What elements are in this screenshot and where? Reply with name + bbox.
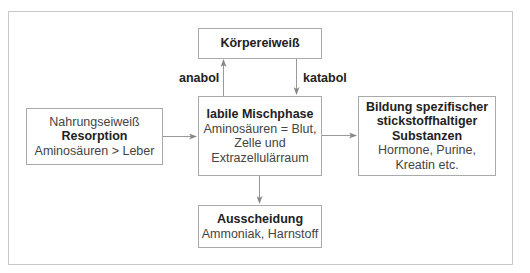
node-line: Aminosäuren > Leber	[35, 144, 155, 159]
node-title-line: Substanzen	[392, 129, 462, 144]
node-ausscheidung: Ausscheidung Ammoniak, Harnstoff	[198, 205, 322, 248]
node-line: Ammoniak, Harnstoff	[202, 227, 318, 242]
edge-label-anabol: anabol	[179, 71, 219, 85]
node-nahrungseiweiss: Nahrungseiweiß Resorption Aminosäuren > …	[26, 108, 163, 165]
node-line: Kreatin etc.	[395, 158, 458, 173]
node-pre: Nahrungseiweiß	[49, 115, 139, 130]
node-line: Extrazellulärraum	[211, 151, 308, 166]
node-title-line: Bildung spezifischer	[366, 100, 488, 115]
node-title: Körpereiweiß	[220, 36, 299, 51]
node-line: Zelle und	[234, 136, 285, 151]
node-mischphase: labile Mischphase Aminosäuren = Blut, Ze…	[198, 96, 322, 176]
node-line: Hormone, Purine,	[378, 143, 476, 158]
node-title: labile Mischphase	[207, 107, 314, 122]
node-title: Resorption	[62, 129, 128, 144]
edge-label-katabol: katabol	[303, 71, 347, 85]
node-koerpereiweiss: Körpereiweiß	[198, 28, 322, 59]
node-line: Aminosäuren = Blut,	[204, 122, 317, 137]
node-bildung: Bildung spezifischer stickstoffhaltiger …	[358, 96, 496, 176]
node-title: Ausscheidung	[217, 212, 303, 227]
node-title-line: stickstoffhaltiger	[377, 114, 478, 129]
